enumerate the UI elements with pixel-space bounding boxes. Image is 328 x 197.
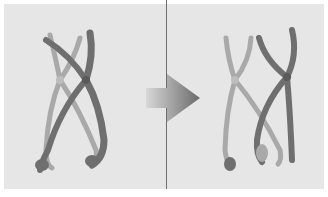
chromosome-diagram xyxy=(0,0,328,197)
before-chromosomes xyxy=(35,33,104,171)
after-chromosomes xyxy=(224,30,294,171)
transition-arrow-icon xyxy=(146,74,200,122)
